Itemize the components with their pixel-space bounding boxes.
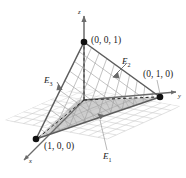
diagram-canvas xyxy=(0,0,186,178)
edge-label-e1-sub: 1 xyxy=(109,157,112,163)
vertex-label-x: (1, 0, 0) xyxy=(44,142,74,152)
edge-label-e2: E2 xyxy=(122,57,131,68)
vertex-label-y: (0, 1, 0) xyxy=(143,70,173,80)
simplex-diagram: z y x (0, 0, 1) (0, 1, 0) (1, 0, 0) E2 E… xyxy=(0,0,186,178)
e1-leader-line xyxy=(100,120,107,150)
edge-label-e2-sub: 2 xyxy=(128,62,131,68)
vertex-dot-y xyxy=(157,94,164,101)
z-axis-label: z xyxy=(78,9,81,16)
edge-label-e1: E1 xyxy=(103,152,112,163)
vertex-dot-x xyxy=(33,136,40,143)
x-axis-label: x xyxy=(29,158,32,165)
vertex-y-leader-line xyxy=(157,80,160,94)
edge-label-e3-sub: 3 xyxy=(50,81,53,87)
y-axis-label: y xyxy=(178,93,181,100)
vertex-label-z: (0, 0, 1) xyxy=(91,36,121,46)
edge-label-e3: E3 xyxy=(44,76,53,87)
vertex-dot-z xyxy=(81,39,88,46)
